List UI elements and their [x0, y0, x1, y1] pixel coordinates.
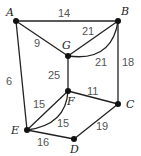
node-label-b: B — [120, 5, 129, 18]
edge-weight-label: 18 — [122, 56, 134, 68]
node-label-d: D — [69, 143, 79, 156]
edge-weight-label: 15 — [33, 98, 45, 110]
edge-a-g — [16, 21, 68, 56]
edge-weights-layer: 1492121186251115151619 — [6, 7, 134, 148]
node-label-c: C — [126, 98, 135, 111]
node-label-a: A — [5, 6, 14, 19]
edge-weight-label: 14 — [58, 7, 70, 19]
edge-weight-label: 6 — [6, 75, 12, 87]
node-f — [65, 88, 71, 94]
node-e — [24, 127, 30, 133]
node-g — [65, 53, 71, 59]
weighted-graph-diagram: 1492121186251115151619 ABGFCED — [0, 0, 141, 156]
edge-weight-label: 25 — [48, 69, 60, 81]
edge-weight-label: 15 — [57, 117, 69, 129]
node-labels-layer: ABGFCED — [5, 5, 135, 156]
edge-weight-label: 11 — [87, 85, 98, 97]
node-label-e: E — [10, 124, 19, 137]
edge-weight-label: 19 — [96, 120, 108, 132]
node-label-f: F — [66, 95, 75, 108]
edge-weight-label: 9 — [34, 37, 40, 49]
node-b — [115, 18, 121, 24]
node-label-g: G — [62, 39, 71, 52]
edge-weight-label: 21 — [95, 56, 107, 68]
node-c — [115, 101, 121, 107]
edge-e-d — [27, 130, 74, 139]
edge-a-e — [16, 21, 27, 130]
edge-weight-label: 16 — [37, 136, 49, 148]
edge-weight-label: 21 — [82, 25, 94, 37]
node-d — [71, 136, 77, 142]
